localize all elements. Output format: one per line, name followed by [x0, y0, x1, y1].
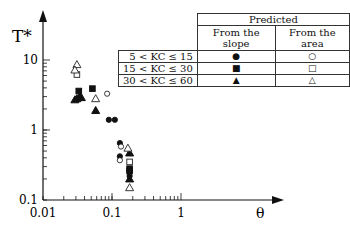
open-triangle-marker [92, 95, 100, 102]
filled-circle-marker [106, 117, 111, 122]
legend-row-label: 5 < KC ≤ 15 [119, 51, 198, 63]
x-axis-label: θ [256, 205, 264, 221]
open-circle-marker [105, 91, 110, 96]
open-square-icon: □ [275, 63, 349, 75]
filled-square-marker [90, 86, 96, 92]
filled-triangle-marker [92, 106, 100, 113]
y-tick-label: 0.1 [19, 193, 38, 207]
filled-circle-icon: ● [197, 51, 275, 63]
open-triangle-icon: △ [275, 75, 349, 87]
filled-circle-marker [112, 117, 117, 122]
open-square-marker [127, 159, 133, 165]
filled-square-marker [127, 168, 133, 174]
open-triangle-marker [124, 144, 132, 151]
y-tick-label: 1 [30, 123, 38, 137]
x-tick-label: 0.01 [30, 206, 57, 220]
y-axis-label: T* [12, 26, 32, 46]
open-circle-marker [118, 144, 123, 149]
open-circle-icon: ○ [275, 51, 349, 63]
legend-row-label: 30 < KC ≤ 60 [119, 75, 198, 87]
y-tick-label: 10 [23, 53, 38, 67]
legend-table: Predicted From the slope From the area 5… [118, 13, 350, 87]
legend-header: Predicted [197, 14, 349, 26]
x-tick-label: 0.1 [102, 206, 121, 220]
filled-triangle-icon: ▲ [197, 75, 275, 87]
legend-col-area: From the area [275, 26, 349, 51]
legend-col-slope: From the slope [197, 26, 275, 51]
legend-row-label: 15 < KC ≤ 30 [119, 63, 198, 75]
open-triangle-marker [126, 184, 134, 191]
open-circle-marker [117, 158, 122, 163]
filled-square-icon: ■ [197, 63, 275, 75]
filled-square-marker [76, 88, 82, 94]
x-tick-label: 1 [177, 206, 185, 220]
